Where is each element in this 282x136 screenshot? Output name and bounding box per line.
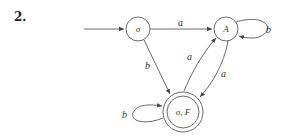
edge-label-sA-loop: b — [266, 24, 271, 35]
edge-label-sF-sA: a — [187, 51, 192, 62]
state-label: σ, F — [176, 107, 191, 117]
state-sigma-f: σ, F — [163, 92, 203, 132]
state-a: A — [214, 17, 238, 41]
state-sigma: σ — [126, 17, 150, 41]
edge-label-sA-sF: a — [221, 68, 226, 79]
edge-label-s0-sF: b — [145, 60, 150, 71]
problem-number: 2. — [14, 10, 27, 24]
state-label: σ — [136, 24, 141, 34]
edge-sF-loop — [133, 105, 163, 122]
edge-sA-loop — [236, 19, 268, 38]
edge-label-s0-sA: a — [178, 17, 183, 28]
edge-label-sF-loop: b — [122, 109, 127, 120]
state-label: A — [222, 24, 229, 34]
automaton-diagram: 2. a b b a a b σ A σ, F — [0, 0, 282, 136]
